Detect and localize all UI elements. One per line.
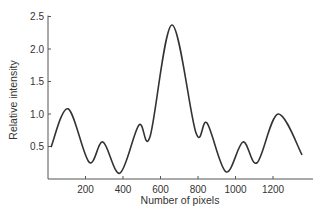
axes: 20040060080010001200 0.51.01.52.02.5 bbox=[30, 11, 313, 195]
line-chart: 20040060080010001200 0.51.01.52.02.5 Num… bbox=[0, 0, 329, 215]
y-tick-label: 1.0 bbox=[30, 109, 44, 120]
y-tick-label: 2.5 bbox=[30, 11, 44, 22]
y-axis-label: Relative intensity bbox=[7, 60, 19, 140]
x-tick-label: 1200 bbox=[262, 184, 285, 195]
x-axis-label: Number of pixels bbox=[141, 194, 220, 206]
intensity-curve bbox=[51, 25, 302, 173]
y-tick-label: 2.0 bbox=[30, 44, 44, 55]
x-tick-label: 1000 bbox=[224, 184, 247, 195]
x-tick-label: 400 bbox=[115, 184, 132, 195]
x-tick-label: 200 bbox=[77, 184, 94, 195]
y-tick-label: 0.5 bbox=[30, 141, 44, 152]
y-tick-label: 1.5 bbox=[30, 76, 44, 87]
